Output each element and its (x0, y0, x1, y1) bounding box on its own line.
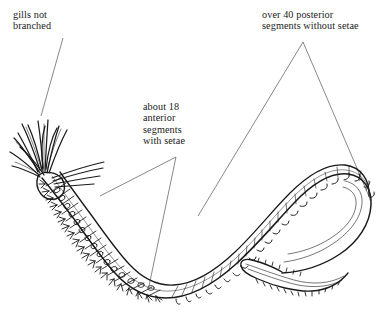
leader-line-anterior (100, 157, 176, 286)
worm-body (10, 120, 374, 304)
tail-upper-serrations (258, 258, 301, 276)
gill-filaments (10, 120, 67, 177)
gills-not-branched-label: gills not branched (13, 9, 51, 32)
body-outline-inner (60, 165, 369, 285)
tail-tip (241, 258, 348, 296)
anterior-segments-label: about 18 anterior segments with setae (143, 101, 185, 147)
posterior-label-line-2: segments without setae (262, 20, 359, 31)
worm-illustration (0, 0, 380, 334)
figure-container: gills not branched about 18 anterior seg… (0, 0, 380, 334)
leader-line-gills (41, 38, 63, 116)
gills-label-line-2: branched (13, 20, 51, 31)
lateral-gill-filaments (52, 162, 104, 187)
anterior-label-line-3: segments (143, 124, 182, 135)
tail-outline-bottom (241, 266, 348, 291)
posterior-segment-ticks (176, 173, 374, 304)
anterior-label-line-4: with setae (143, 135, 185, 146)
posterior-label-line-1: over 40 posterior (262, 9, 333, 20)
anterior-label-line-1: about 18 (143, 101, 179, 112)
posterior-segments-label: over 40 posterior segments without setae (262, 9, 359, 32)
tail-outline-top (241, 259, 282, 272)
posterior-hook-inner-lines (284, 181, 362, 262)
parapodial-lobes (53, 186, 154, 290)
leader-lines (41, 38, 371, 286)
leader-line-posterior (198, 42, 371, 216)
anterior-label-line-2: anterior (143, 112, 175, 123)
gills-label-line-1: gills not (13, 9, 47, 20)
